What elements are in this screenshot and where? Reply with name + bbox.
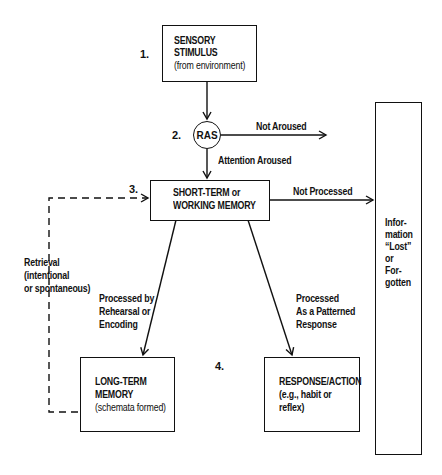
- patterned-line3: Response: [296, 319, 337, 331]
- response-line3: reflex): [279, 402, 304, 414]
- lost-line4: or: [385, 253, 393, 265]
- stm-line2: WORKING MEMORY: [173, 200, 256, 212]
- attention-aroused-label: Attention Aroused: [218, 155, 291, 167]
- lost-line5: For-: [385, 265, 401, 277]
- retrieval-line1: Retrieval: [24, 257, 60, 269]
- sensory-line3: (from environment): [174, 60, 245, 72]
- stm-line1: SHORT-TERM or: [173, 187, 240, 199]
- step-number-3: 3.: [129, 183, 138, 195]
- lost-line6: gotten: [385, 277, 411, 289]
- retrieval-line2: (intentional: [24, 270, 69, 282]
- information-lost-node: Infor- mation “Lost” or For- gotten: [375, 102, 422, 455]
- short-term-memory-node: SHORT-TERM or WORKING MEMORY: [150, 180, 270, 221]
- not-aroused-label: Not Aroused: [256, 121, 307, 133]
- step-number-1: 1.: [140, 48, 149, 60]
- ras-node: RAS: [193, 121, 221, 149]
- not-processed-label: Not Processed: [293, 186, 352, 198]
- ltm-line2: MEMORY: [95, 389, 133, 401]
- patterned-line2: As a Patterned: [296, 306, 355, 318]
- retrieval-line3: or spontaneous): [24, 283, 90, 295]
- step-number-2: 2.: [172, 129, 181, 141]
- response-line1: RESPONSE/ACTION: [279, 376, 361, 388]
- rehearsal-line3: Encoding: [99, 319, 138, 331]
- lost-line2: mation: [385, 229, 413, 241]
- ras-label: RAS: [196, 130, 217, 141]
- lost-line3: “Lost”: [385, 241, 411, 253]
- response-line2: (e.g., habit or: [279, 389, 332, 401]
- step-number-4: 4.: [215, 360, 224, 372]
- rehearsal-line1: Processed by: [99, 293, 154, 305]
- ltm-line3: (schemata formed): [95, 402, 166, 414]
- sensory-stimulus-node: SENSORY STIMULUS (from environment): [162, 25, 257, 82]
- response-action-node: RESPONSE/ACTION (e.g., habit or reflex): [264, 357, 360, 432]
- ltm-line1: LONG-TERM: [95, 376, 147, 388]
- rehearsal-line2: Rehearsal or: [99, 306, 150, 318]
- long-term-memory-node: LONG-TERM MEMORY (schemata formed): [80, 357, 175, 432]
- sensory-line2: STIMULUS: [174, 47, 218, 59]
- patterned-line1: Processed: [296, 293, 339, 305]
- sensory-line1: SENSORY: [174, 35, 215, 47]
- lost-line1: Infor-: [385, 217, 406, 229]
